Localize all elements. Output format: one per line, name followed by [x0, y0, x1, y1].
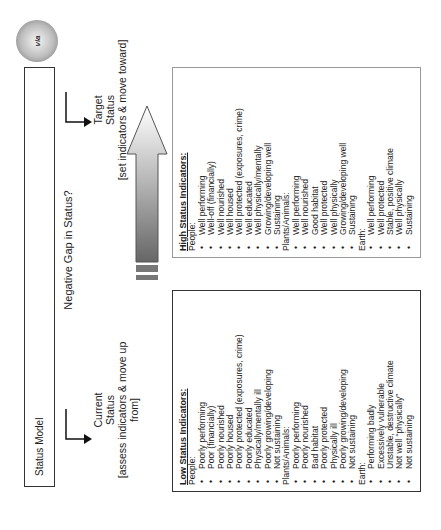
via-logo: via: [16, 20, 58, 62]
status-model-diagram: Status Model via Negative Gap in Status?…: [0, 0, 441, 530]
target-title-1: Target: [92, 30, 104, 190]
current-bent-arrow-icon: [64, 405, 94, 445]
current-note: [assess indicators & move up from]: [116, 330, 140, 490]
high-status-box: High Status Indicators: People: Well per…: [172, 67, 421, 258]
low-earth-list: Performing badly Excessively vulnerable …: [367, 297, 414, 485]
high-plants-list: Well performing Well nourished Good habi…: [292, 74, 358, 251]
low-people-list: Poorly performing Poor (financially) Poo…: [198, 297, 283, 485]
current-title-1: Current: [92, 330, 104, 490]
list-item: Sustaining: [273, 74, 282, 235]
list-item: Sustaining: [405, 74, 414, 235]
low-plants-list: Poorly performing Poorly nourished Bad h…: [292, 297, 358, 485]
current-title-2: Status: [104, 330, 116, 490]
high-people-list: Well performing Well-off (financially) W…: [198, 74, 283, 251]
title-bar: Status Model: [24, 67, 55, 487]
list-item: Not sustaining: [273, 297, 282, 469]
high-earth-list: Well performing Well protected Stable, p…: [367, 74, 414, 251]
gap-label: Negative Gap in Status?: [62, 150, 74, 350]
list-item: Not sustaining: [348, 297, 357, 469]
target-status-label: Target Status [set indicators & move tow…: [92, 30, 128, 190]
diagram-title: Status Model: [34, 418, 45, 476]
target-bent-arrow-icon: [64, 88, 94, 128]
list-item: Not sustaining: [405, 297, 414, 469]
progress-arrow-icon: [126, 102, 168, 282]
list-item: Sustaining: [348, 74, 357, 235]
current-status-label: Current Status [assess indicators & move…: [92, 330, 140, 490]
logo-text: via: [33, 35, 42, 46]
target-title-2: Status: [104, 30, 116, 190]
low-status-box: Low Status Indicators: People: Poorly pe…: [172, 290, 421, 492]
